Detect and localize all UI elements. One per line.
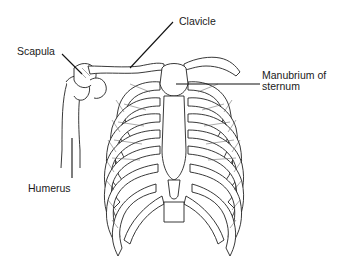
clavicle-right	[184, 57, 240, 76]
humerus-bone	[61, 76, 90, 168]
ribs-left	[104, 82, 164, 256]
sternum	[160, 64, 188, 223]
humerus-label: Humerus	[28, 183, 71, 194]
xiphoid-process	[168, 180, 180, 199]
manubrium-label: Manubrium of sternum	[262, 70, 326, 92]
ribs-right	[184, 82, 244, 256]
rib-cage-illustration	[0, 0, 343, 269]
clavicle-left	[88, 63, 164, 74]
clavicle-label: Clavicle	[179, 16, 216, 27]
rib-cage-diagram: Scapula Clavicle Manubrium of sternum Hu…	[0, 0, 343, 269]
clavicle-leader-line	[130, 22, 173, 68]
manubrium	[160, 64, 188, 97]
vertebra	[164, 202, 184, 222]
scapula-leader-line	[62, 54, 82, 74]
manubrium-label-line2: sternum	[262, 81, 326, 92]
scapula-label: Scapula	[17, 46, 55, 57]
sternum-body	[162, 96, 186, 180]
